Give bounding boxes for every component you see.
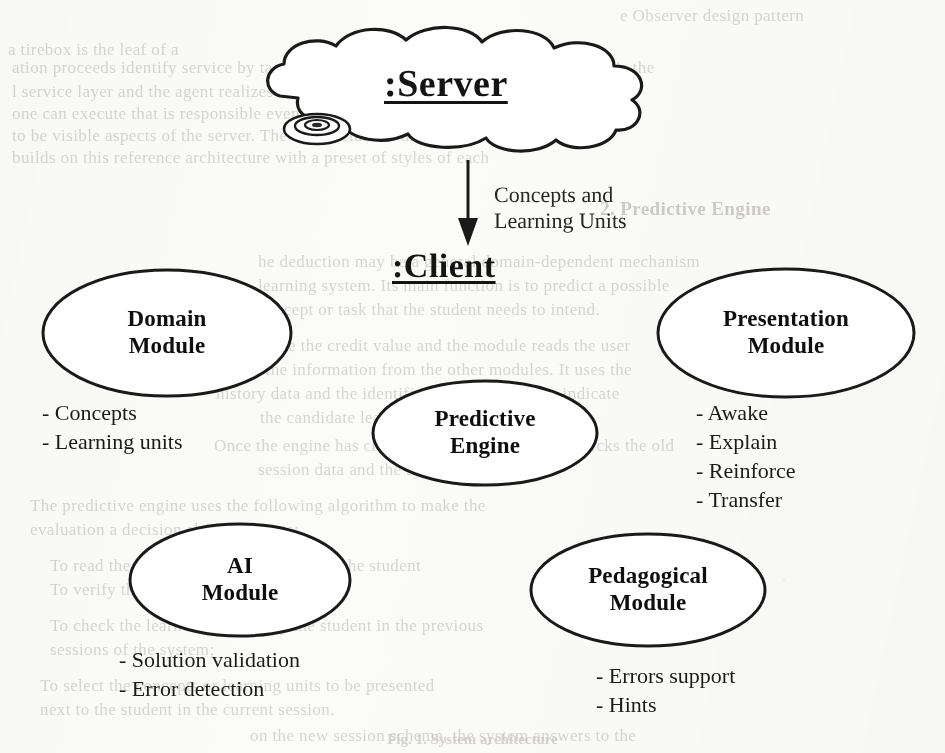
list-item: - Transfer (696, 485, 796, 514)
predictive-engine-label: Predictive Engine (434, 406, 535, 459)
list-item: - Learning units (42, 427, 183, 456)
list-item: - Solution validation (119, 645, 300, 674)
list-item: - Reinforce (696, 456, 796, 485)
ai-module-label: AI Module (202, 553, 279, 606)
pedagogical-module-label: Pedagogical Module (588, 563, 708, 616)
ai-module-item-list: - Solution validation- Error detection (119, 645, 300, 703)
pedagogical-module-item-list: - Errors support- Hints (596, 661, 735, 719)
architecture-diagram: :Server Concepts and Learning Units :Cli… (0, 0, 945, 753)
list-item: - Hints (596, 690, 735, 719)
domain-module-item-list: - Concepts- Learning units (42, 398, 183, 456)
module-nodes-layer: Domain Module- Concepts- Learning unitsP… (0, 0, 945, 753)
presentation-module-label: Presentation Module (723, 306, 849, 359)
presentation-module-item-list: - Awake- Explain- Reinforce- Transfer (696, 398, 796, 514)
list-item: - Error detection (119, 674, 300, 703)
list-item: - Explain (696, 427, 796, 456)
scanned-page: e Observer design patterna tirebox is th… (0, 0, 945, 753)
list-item: - Awake (696, 398, 796, 427)
domain-module-label: Domain Module (127, 306, 206, 359)
list-item: - Errors support (596, 661, 735, 690)
list-item: - Concepts (42, 398, 183, 427)
